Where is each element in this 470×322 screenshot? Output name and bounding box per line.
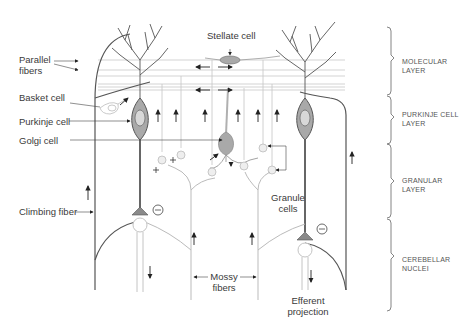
layer-granular: GRANULARLAYER — [402, 176, 443, 194]
label-purkinje-cell: Purkinje cell — [19, 116, 70, 127]
label-stellate-cell: Stellate cell — [207, 30, 256, 41]
basket-cell — [100, 98, 128, 114]
label-mossy-fibers-2: fibers — [206, 282, 242, 293]
layer-molecular: MOLECULARLAYER — [402, 57, 447, 75]
climbing-fiber — [95, 34, 150, 290]
label-granule-cells-1: Granule — [268, 192, 308, 203]
golgi-cell — [210, 88, 258, 168]
purkinje-dendrites-left — [112, 24, 168, 100]
layer-cerebellar-nuclei: CEREBELLARNUCLEI — [402, 255, 450, 273]
purkinje-dendrites-right — [276, 22, 336, 100]
layer-purkinje: PURKINJE CELLLAYER — [402, 110, 459, 128]
purkinje-cell-right — [297, 98, 314, 240]
nuclear-cell-left — [133, 218, 147, 292]
label-efferent-2: projection — [280, 306, 336, 317]
label-climbing-fiber: Climbing fiber — [19, 206, 77, 217]
layer-brackets — [387, 27, 394, 311]
label-parallel-fibers-2: fibers — [19, 65, 42, 76]
label-basket-cell: Basket cell — [19, 92, 65, 103]
nuclear-cell-right — [298, 243, 312, 290]
label-golgi-cell: Golgi cell — [19, 135, 58, 146]
label-mossy-fibers-1: Mossy — [206, 271, 242, 282]
label-parallel-fibers-1: Parallel — [19, 54, 51, 65]
label-efferent-1: Efferent — [280, 295, 336, 306]
purkinje-cell-left — [132, 98, 149, 215]
label-granule-cells-2: cells — [268, 203, 308, 214]
